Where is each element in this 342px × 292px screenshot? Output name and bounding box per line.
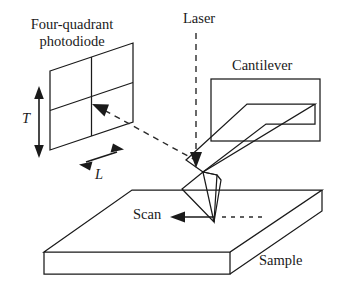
dimension-L-arrowhead-left — [79, 162, 93, 171]
cantilever-label: Cantilever — [232, 57, 292, 74]
dimension-T-group — [34, 86, 44, 158]
dimension-L-arrowhead-right — [111, 144, 125, 153]
scan-label: Scan — [133, 206, 161, 223]
reflected-beam-group — [92, 104, 197, 161]
cantilever-holder-rect — [211, 79, 320, 141]
dimension-T-label: T — [22, 110, 30, 127]
photodiode-label-line1: Four-quadrant — [31, 16, 114, 32]
cantilever-holder-group — [211, 79, 320, 141]
laser-label: Laser — [183, 10, 215, 27]
reflected-beam-arrowhead — [92, 104, 109, 117]
dimension-T-arrowhead-up — [34, 86, 44, 99]
dimension-L-label: L — [95, 166, 103, 183]
sample-label: Sample — [259, 252, 303, 269]
cantilever-beam-top-face — [186, 104, 315, 172]
reflected-beam-line — [104, 110, 197, 161]
scan-arrow-group — [170, 212, 264, 223]
tip-outline-left — [182, 172, 214, 222]
dimension-T-arrowhead-down — [34, 145, 44, 158]
sample-front-face — [44, 252, 230, 274]
photodiode-label: Four-quadrant photodiode — [13, 16, 131, 49]
dimension-L-shaft — [86, 152, 117, 162]
photodiode-label-line2: photodiode — [39, 33, 104, 49]
tip-facet-edge — [203, 172, 217, 175]
photodiode-group — [50, 43, 133, 150]
cantilever-beam-group — [186, 104, 315, 172]
cantilever-tip-group — [182, 172, 221, 222]
afm-schematic-figure: Four-quadrant photodiode Laser Cantileve… — [0, 0, 342, 292]
scan-arrow-head — [170, 212, 185, 223]
